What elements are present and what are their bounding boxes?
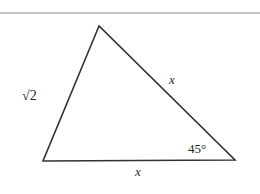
left-side-label: √2 [22,88,37,103]
angle-label: 45° [188,141,206,156]
bottom-side-label: x [134,164,141,179]
right-side-label: x [168,72,175,87]
triangle-diagram: √2 x 45° x [0,0,260,194]
